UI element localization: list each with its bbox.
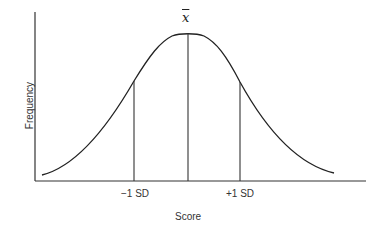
plus-1sd-label: +1 SD [226,188,254,199]
y-axis-label: Frequency [24,82,35,129]
bell-curve-chart [0,0,376,232]
x-axis-label: Score [175,211,201,222]
mean-label: x [182,10,189,25]
minus-1sd-label: −1 SD [121,188,149,199]
